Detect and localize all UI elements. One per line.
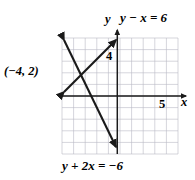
- y-axis-label: y: [105, 13, 111, 26]
- coordinate-plane-svg: [0, 0, 195, 180]
- x-axis-tick-label-5: 5: [159, 98, 165, 111]
- intersection-point-label: (−4, 2): [4, 65, 39, 78]
- equation-label-line1: y − x = 6: [120, 11, 167, 24]
- graph-figure: y x 4 5 (−4, 2) y − x = 6 y + 2x = −6: [0, 0, 195, 180]
- equation-label-line2: y + 2x = −6: [62, 159, 123, 172]
- x-axis-label: x: [181, 96, 187, 109]
- y-axis-tick-label-4: 4: [106, 50, 112, 63]
